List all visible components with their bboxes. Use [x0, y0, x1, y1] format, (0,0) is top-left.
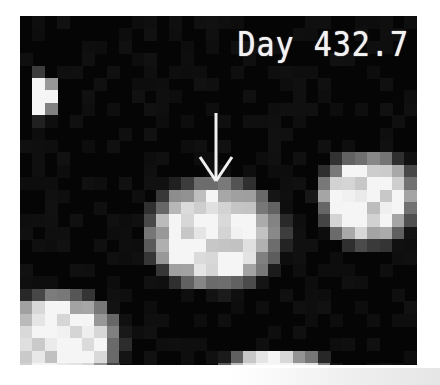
- image-pixel: [243, 227, 256, 240]
- image-pixel: [243, 115, 256, 128]
- image-pixel: [243, 177, 256, 190]
- image-pixel: [404, 103, 417, 116]
- image-pixel: [20, 264, 33, 277]
- image-pixel: [82, 90, 95, 103]
- image-pixel: [330, 227, 343, 240]
- image-pixel: [181, 264, 194, 277]
- image-pixel: [82, 351, 95, 364]
- image-pixel: [70, 314, 83, 327]
- image-pixel: [206, 227, 219, 240]
- image-pixel: [194, 276, 207, 289]
- image-pixel: [181, 252, 194, 265]
- image-pixel: [256, 276, 269, 289]
- image-pixel: [156, 202, 169, 215]
- image-pixel: [156, 78, 169, 91]
- image-pixel: [156, 252, 169, 265]
- image-pixel: [20, 53, 33, 66]
- image-pixel: [181, 41, 194, 54]
- image-pixel: [330, 177, 343, 190]
- image-pixel: [70, 301, 83, 314]
- image-pixel: [305, 190, 318, 203]
- image-pixel: [231, 190, 244, 203]
- image-pixel: [70, 363, 83, 365]
- image-pixel: [342, 202, 355, 215]
- image-pixel: [243, 252, 256, 265]
- image-pixel: [194, 338, 207, 351]
- image-pixel: [119, 239, 132, 252]
- image-pixel: [45, 78, 58, 91]
- image-pixel: [268, 66, 281, 79]
- image-pixel: [318, 301, 331, 314]
- image-pixel: [256, 363, 269, 365]
- image-pixel: [82, 363, 95, 365]
- image-pixel: [342, 214, 355, 227]
- image-pixel: [305, 103, 318, 116]
- image-pixel: [293, 78, 306, 91]
- image-pixel: [32, 140, 45, 153]
- image-pixel: [181, 289, 194, 302]
- image-pixel: [231, 351, 244, 364]
- image-pixel: [268, 115, 281, 128]
- image-pixel: [256, 252, 269, 265]
- image-pixel: [355, 202, 368, 215]
- image-pixel: [404, 227, 417, 240]
- image-pixel: [256, 190, 269, 203]
- image-pixel: [342, 239, 355, 252]
- image-pixel: [144, 363, 157, 365]
- image-pixel: [94, 301, 107, 314]
- image-pixel: [144, 78, 157, 91]
- image-pixel: [70, 66, 83, 79]
- image-pixel: [218, 227, 231, 240]
- image-pixel: [268, 140, 281, 153]
- image-pixel: [367, 338, 380, 351]
- image-pixel: [169, 28, 182, 41]
- image-pixel: [156, 190, 169, 203]
- image-pixel: [107, 351, 120, 364]
- image-pixel: [156, 90, 169, 103]
- image-pixel: [256, 301, 269, 314]
- image-pixel: [342, 177, 355, 190]
- image-pixel: [206, 28, 219, 41]
- image-pixel: [206, 41, 219, 54]
- image-pixel: [404, 239, 417, 252]
- image-pixel: [318, 351, 331, 364]
- image-pixel: [119, 314, 132, 327]
- image-pixel: [330, 214, 343, 227]
- image-pixel: [107, 301, 120, 314]
- image-pixel: [280, 78, 293, 91]
- image-pixel: [132, 252, 145, 265]
- image-pixel: [367, 177, 380, 190]
- image-pixel: [380, 177, 393, 190]
- image-pixel: [144, 326, 157, 339]
- image-pixel: [169, 227, 182, 240]
- image-pixel: [82, 41, 95, 54]
- image-pixel: [107, 326, 120, 339]
- image-pixel: [45, 326, 58, 339]
- image-pixel: [342, 190, 355, 203]
- image-pixel: [107, 363, 120, 365]
- image-pixel: [404, 252, 417, 265]
- image-pixel: [380, 363, 393, 365]
- image-pixel: [231, 227, 244, 240]
- image-pixel: [194, 214, 207, 227]
- image-pixel: [82, 264, 95, 277]
- image-pixel: [181, 363, 194, 365]
- image-pixel: [206, 78, 219, 91]
- image-pixel: [107, 227, 120, 240]
- image-pixel: [380, 202, 393, 215]
- image-pixel: [330, 103, 343, 116]
- image-pixel: [404, 314, 417, 327]
- image-pixel: [144, 128, 157, 141]
- image-pixel: [268, 239, 281, 252]
- image-pixel: [280, 289, 293, 302]
- image-pixel: [107, 289, 120, 302]
- image-pixel: [268, 103, 281, 116]
- image-pixel: [82, 140, 95, 153]
- image-pixel: [132, 53, 145, 66]
- image-pixel: [367, 239, 380, 252]
- image-pixel: [380, 239, 393, 252]
- image-pixel: [119, 41, 132, 54]
- image-pixel: [305, 66, 318, 79]
- image-pixel: [57, 363, 70, 365]
- image-pixel: [94, 239, 107, 252]
